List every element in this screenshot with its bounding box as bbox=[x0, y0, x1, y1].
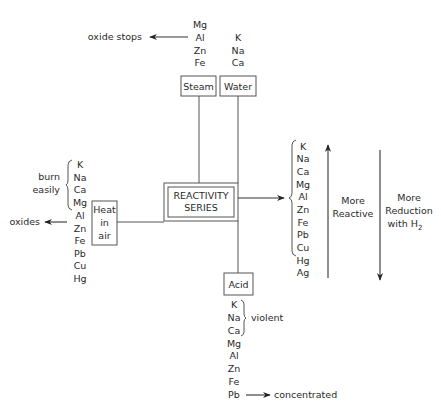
heat-metal: Mg bbox=[73, 197, 87, 208]
burn-easily-label: burn bbox=[38, 171, 60, 182]
steam-metal: Fe bbox=[195, 57, 206, 68]
heat-metal: Na bbox=[74, 172, 87, 183]
acid-metal: Pb bbox=[228, 389, 240, 400]
heat-metal: Fe bbox=[75, 235, 86, 246]
more-reduction-label: with H2 bbox=[388, 218, 423, 232]
series-metals-list: K Na Ca Mg Al Zn Fe Pb Cu Hg Ag bbox=[296, 141, 310, 278]
acid-label: Acid bbox=[228, 279, 248, 290]
h2-subscript: 2 bbox=[418, 224, 422, 232]
heat-metal: Hg bbox=[73, 273, 86, 284]
acid-metal: Ca bbox=[228, 325, 240, 336]
more-reduction-label: Reduction bbox=[385, 205, 433, 216]
heat-metals-list: K Na Ca Mg Al Zn Fe Pb Cu Hg bbox=[73, 159, 87, 284]
acid-metal: Zn bbox=[228, 363, 241, 374]
heat-metal: Zn bbox=[74, 223, 87, 234]
series-metal: Hg bbox=[296, 255, 309, 266]
violent-brace bbox=[241, 300, 246, 336]
series-metal: Ag bbox=[297, 267, 310, 278]
burn-easily-label: easily bbox=[32, 184, 60, 195]
heat-metal: Cu bbox=[74, 260, 87, 271]
heat-label-line: air bbox=[98, 230, 110, 241]
water-metal: Na bbox=[232, 45, 245, 56]
more-reduction-label: More bbox=[397, 192, 421, 203]
water-metals-list: K Na Ca bbox=[232, 32, 245, 68]
steam-metal: Mg bbox=[193, 19, 207, 30]
reactivity-title-line2: SERIES bbox=[184, 202, 217, 213]
with-h-text: with H bbox=[388, 218, 418, 229]
heat-label-line: Heat bbox=[93, 204, 116, 215]
water-label: Water bbox=[224, 81, 252, 92]
heat-metal: Ca bbox=[74, 184, 86, 195]
series-metal: Fe bbox=[298, 217, 309, 228]
oxide-stops-label: oxide stops bbox=[88, 31, 142, 42]
acid-metal: Mg bbox=[227, 338, 241, 349]
oxides-label: oxides bbox=[9, 216, 40, 227]
series-metal: K bbox=[300, 141, 307, 152]
series-metal: Cu bbox=[297, 242, 310, 253]
water-metal: K bbox=[235, 32, 242, 43]
acid-metal: Fe bbox=[229, 376, 240, 387]
more-reactive-label: Reactive bbox=[333, 208, 374, 219]
burn-easily-brace bbox=[66, 160, 72, 210]
heat-metal: K bbox=[77, 159, 84, 170]
acid-metal: Al bbox=[229, 350, 238, 361]
acid-metal: K bbox=[231, 299, 238, 310]
water-metal: Ca bbox=[232, 57, 244, 68]
heat-metal: Pb bbox=[74, 248, 86, 259]
steam-metal: Al bbox=[195, 32, 204, 43]
series-metal: Na bbox=[297, 153, 310, 164]
series-metal: Al bbox=[298, 191, 307, 202]
steam-metal: Zn bbox=[194, 45, 207, 56]
violent-label: violent bbox=[251, 312, 284, 323]
series-metal: Mg bbox=[296, 179, 310, 190]
acid-metal: Na bbox=[228, 312, 241, 323]
series-metal: Pb bbox=[297, 229, 309, 240]
steam-label: Steam bbox=[183, 81, 214, 92]
acid-metals-list: K Na Ca Mg Al Zn Fe Pb bbox=[227, 299, 241, 400]
steam-metals-list: Mg Al Zn Fe bbox=[193, 19, 207, 68]
more-reactive-label: More bbox=[341, 195, 365, 206]
series-metal: Ca bbox=[297, 166, 309, 177]
series-brace bbox=[289, 140, 296, 256]
heat-label-line: in bbox=[100, 217, 109, 228]
reactivity-diagram: Mg Al Zn Fe oxide stops K Na Ca Steam Wa… bbox=[0, 0, 441, 414]
series-metal: Zn bbox=[297, 204, 310, 215]
heat-metal: Al bbox=[75, 210, 84, 221]
reactivity-title-line1: REACTIVITY bbox=[173, 190, 228, 201]
concentrated-label: concentrated bbox=[274, 389, 337, 400]
